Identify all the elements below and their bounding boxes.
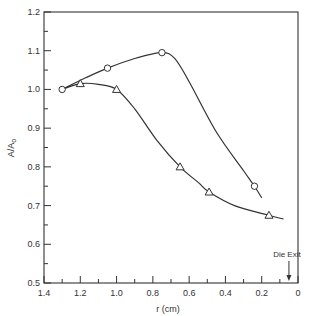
x-axis-title: r (cm) [156, 304, 180, 314]
x-tick-label: 0.6 [183, 288, 196, 298]
x-tick-label: 1.4 [38, 288, 51, 298]
svg-text:A/Ao: A/Ao [6, 139, 17, 158]
triangle-marker [113, 85, 121, 92]
plot-frame [44, 12, 298, 283]
chart: 1.41.21.00.80.60.40.20 0.50.60.70.80.91.… [0, 0, 314, 316]
y-tick-label: 0.7 [27, 201, 40, 211]
die-exit-label: Die Exit [273, 250, 301, 259]
curve-triangles [62, 83, 283, 219]
x-axis-ticks: 1.41.21.00.80.60.40.20 [38, 276, 301, 298]
y-tick-label: 0.6 [27, 239, 40, 249]
circle-marker [251, 183, 257, 189]
curve-circles [62, 53, 262, 198]
y-axis-ticks: 0.50.60.70.80.91.01.11.2 [27, 7, 51, 288]
x-tick-label: 0.8 [147, 288, 160, 298]
y-tick-label: 1.0 [27, 84, 40, 94]
data-curves [62, 53, 283, 219]
die-exit-annotation: Die Exit [273, 250, 301, 281]
y-tick-label: 0.5 [27, 278, 40, 288]
x-tick-label: 0 [295, 288, 300, 298]
circle-marker [59, 86, 65, 92]
triangle-marker [205, 188, 213, 195]
y-axis-title: A/Ao [6, 139, 17, 158]
x-tick-label: 0.2 [255, 288, 268, 298]
circle-marker [159, 49, 165, 55]
y-tick-label: 1.2 [27, 7, 40, 17]
arrowhead-icon [286, 275, 291, 281]
x-tick-label: 1.0 [110, 288, 123, 298]
x-tick-label: 1.2 [74, 288, 87, 298]
y-tick-label: 1.1 [27, 46, 40, 56]
circle-marker [104, 65, 110, 71]
y-tick-label: 0.8 [27, 162, 40, 172]
x-tick-label: 0.4 [219, 288, 232, 298]
y-tick-label: 0.9 [27, 123, 40, 133]
